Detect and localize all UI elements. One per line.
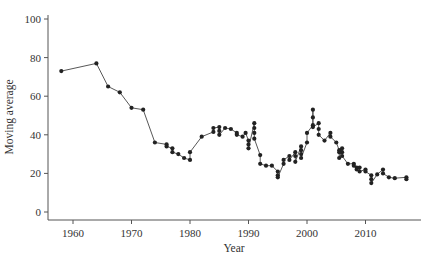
data-point: [369, 177, 373, 181]
data-point: [381, 171, 385, 175]
data-point: [287, 154, 291, 158]
data-point: [311, 125, 315, 129]
data-point: [287, 158, 291, 162]
x-ticks: 196019701980199020002010: [62, 220, 377, 239]
data-point: [276, 169, 280, 173]
data-markers: [59, 61, 408, 185]
data-point: [282, 158, 286, 162]
data-point: [252, 137, 256, 141]
data-point: [317, 127, 321, 131]
data-point: [299, 148, 303, 152]
x-axis-label: Year: [223, 242, 244, 254]
data-point: [340, 154, 344, 158]
data-point: [375, 172, 379, 176]
x-tick-label: 2010: [355, 227, 378, 239]
data-point: [299, 152, 303, 156]
x-tick-label: 1980: [179, 227, 202, 239]
data-point: [118, 90, 122, 94]
data-point: [141, 108, 145, 112]
data-point: [334, 140, 338, 144]
y-tick-label: 100: [25, 13, 42, 25]
data-point: [182, 156, 186, 160]
data-point: [246, 139, 250, 143]
data-point: [59, 69, 63, 73]
data-point: [129, 106, 133, 110]
data-point: [106, 84, 110, 88]
data-point: [317, 133, 321, 137]
data-point: [244, 131, 248, 135]
data-point: [264, 164, 268, 168]
data-point: [328, 131, 332, 135]
data-point: [165, 144, 169, 148]
data-point: [293, 160, 297, 164]
data-point: [393, 176, 397, 180]
y-tick-label: 0: [36, 206, 42, 218]
data-point: [363, 169, 367, 173]
y-tick-label: 60: [30, 90, 42, 102]
data-point: [94, 61, 98, 65]
x-tick-label: 2000: [296, 227, 319, 239]
data-point: [299, 156, 303, 160]
y-tick-label: 40: [30, 129, 42, 141]
data-point: [293, 150, 297, 154]
data-point: [258, 153, 262, 157]
data-point: [293, 154, 297, 158]
x-tick-label: 1970: [121, 227, 144, 239]
data-point: [217, 133, 221, 137]
data-point: [235, 133, 239, 137]
data-point: [282, 162, 286, 166]
data-point: [211, 126, 215, 130]
data-point: [404, 177, 408, 181]
data-point: [340, 150, 344, 154]
data-point: [246, 146, 250, 150]
y-tick-label: 80: [30, 52, 42, 64]
y-tick-label: 20: [30, 167, 42, 179]
plot-line-group: [59, 61, 408, 185]
data-point: [387, 175, 391, 179]
data-point: [276, 175, 280, 179]
moving-average-chart: 020406080100 196019701980199020002010 Ye…: [0, 0, 426, 262]
data-point: [200, 135, 204, 139]
data-point: [258, 162, 262, 166]
y-ticks: 020406080100: [25, 13, 49, 218]
data-point: [229, 127, 233, 131]
data-point: [299, 144, 303, 148]
data-point: [223, 126, 227, 130]
y-axis-label: Moving average: [3, 79, 16, 154]
data-point: [305, 140, 309, 144]
data-point: [170, 146, 174, 150]
data-point: [270, 164, 274, 168]
data-point: [311, 115, 315, 119]
data-point: [176, 152, 180, 156]
data-point: [246, 142, 250, 146]
data-point: [340, 146, 344, 150]
data-point: [188, 158, 192, 162]
data-point: [241, 135, 245, 139]
data-point: [317, 121, 321, 125]
data-point: [358, 166, 362, 170]
data-point: [346, 162, 350, 166]
data-point: [305, 131, 309, 135]
data-point: [369, 181, 373, 185]
data-point: [170, 150, 174, 154]
data-point: [188, 150, 192, 154]
data-point: [153, 140, 157, 144]
data-point: [217, 129, 221, 133]
data-point: [211, 130, 215, 134]
data-point: [252, 126, 256, 130]
x-tick-label: 1990: [238, 227, 261, 239]
data-point: [381, 167, 385, 171]
data-point: [252, 131, 256, 135]
data-point: [328, 135, 332, 139]
data-point: [322, 139, 326, 143]
data-point: [369, 173, 373, 177]
data-point: [311, 108, 315, 112]
x-tick-label: 1960: [62, 227, 85, 239]
data-point: [217, 125, 221, 129]
data-point: [358, 169, 362, 173]
data-point: [252, 121, 256, 125]
